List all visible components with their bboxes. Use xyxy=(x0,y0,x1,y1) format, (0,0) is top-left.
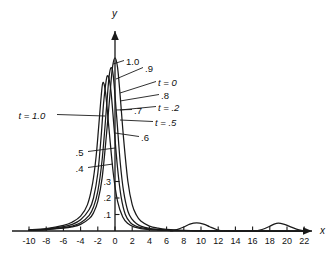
x-tick-label: 22 xyxy=(290,236,318,246)
callout-leader xyxy=(57,115,105,117)
callout-leader xyxy=(116,68,143,80)
callout-leader xyxy=(120,82,156,94)
curve-secondary-hump-1 xyxy=(171,223,223,231)
callout-label-time: t = .2 xyxy=(158,103,179,113)
y-tick-label: .2 xyxy=(89,193,111,203)
callout-label-amplitude: .8 xyxy=(161,91,169,101)
callout-label-time: t = 1.0 xyxy=(19,111,46,121)
y-tick-label: .3 xyxy=(89,177,111,187)
y-tick-label: .1 xyxy=(89,210,111,220)
callout-label-amplitude: .6 xyxy=(141,133,149,143)
x-axis-label: x xyxy=(320,225,325,236)
callout-label-amplitude: 1.0 xyxy=(126,57,139,67)
plot-canvas xyxy=(0,0,335,256)
callout-label-amplitude: .5 xyxy=(76,148,84,158)
y-axis-arrowhead xyxy=(111,31,119,40)
callout-label-amplitude: .7 xyxy=(134,106,142,116)
callout-leader xyxy=(120,120,153,122)
callout-leader xyxy=(120,95,159,102)
callout-label-time: t = 0 xyxy=(158,78,177,88)
y-axis-label: y xyxy=(112,8,117,19)
callout-leader xyxy=(88,164,113,168)
callout-leader xyxy=(116,110,132,111)
callout-label-amplitude: .4 xyxy=(76,164,84,174)
callout-label-amplitude: .9 xyxy=(145,64,153,74)
axes-layer xyxy=(12,31,312,235)
curve-secondary-hump-2 xyxy=(255,223,304,231)
figure-container: y x -10-8-6-4-20246810121416182022 .1.2.… xyxy=(0,0,335,256)
callout-label-time: t = .5 xyxy=(155,118,176,128)
